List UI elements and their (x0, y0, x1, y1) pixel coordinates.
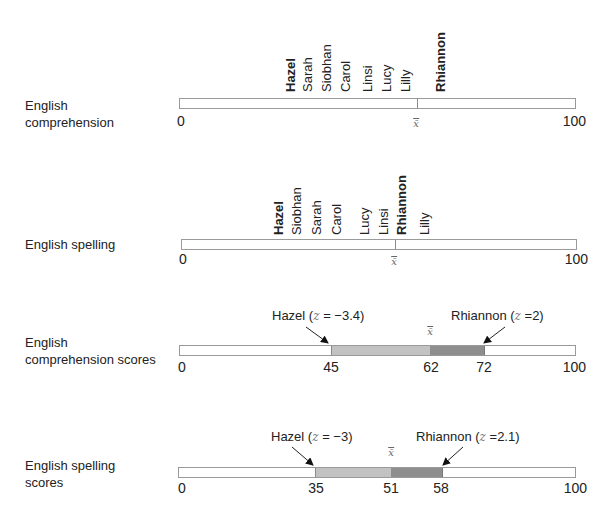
callout-arrows (0, 0, 600, 526)
arrow-icon (292, 327, 505, 465)
